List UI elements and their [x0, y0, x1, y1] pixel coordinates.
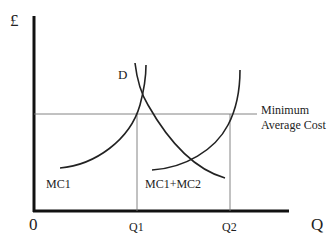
q2-tick-label: Q2 — [222, 221, 237, 233]
mc1-mc2-curve — [152, 70, 240, 170]
origin-label: 0 — [29, 216, 38, 233]
mc1-mc2-label: MC1+MC2 — [145, 178, 201, 190]
minimum-average-cost-label-line1: Minimum — [261, 104, 309, 116]
mc1-curve — [60, 65, 146, 168]
demand-label: D — [118, 68, 127, 81]
q1-tick-label: Q1 — [129, 221, 144, 233]
mc1-label: MC1 — [46, 178, 71, 190]
x-axis-label: Q — [311, 216, 323, 233]
y-axis-label: £ — [10, 12, 19, 29]
minimum-average-cost-label-line2: Average Cost — [261, 119, 326, 131]
demand-curve — [135, 63, 225, 178]
